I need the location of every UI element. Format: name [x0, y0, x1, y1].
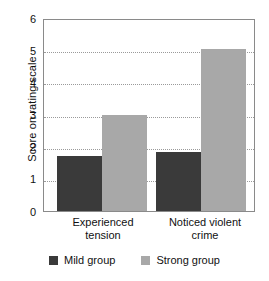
bar-strong-1	[201, 49, 246, 211]
x-axis-category-label-line: Experienced	[44, 216, 162, 229]
y-axis-tick-label: 0	[22, 207, 36, 218]
y-axis-tick-label: 5	[22, 46, 36, 57]
legend-label: Mild group	[64, 255, 115, 266]
bar-chart: Score on rating scale 0123456 Experience…	[0, 0, 269, 281]
legend-item-1[interactable]: Strong group	[141, 255, 220, 266]
bar-strong-0	[102, 115, 147, 212]
bar-mild-1	[156, 152, 201, 212]
legend-label: Strong group	[156, 255, 220, 266]
x-axis-category-label-1: Noticed violentcrime	[146, 216, 264, 242]
x-axis-category-label-line: Noticed violent	[146, 216, 264, 229]
y-axis-tick-label: 2	[22, 142, 36, 153]
y-axis-tick-label: 1	[22, 174, 36, 185]
x-axis-category-label-line: crime	[146, 229, 264, 242]
legend: Mild groupStrong group	[0, 255, 269, 266]
legend-item-0[interactable]: Mild group	[49, 255, 115, 266]
x-axis-category-label-0: Experiencedtension	[44, 216, 162, 242]
legend-swatch-icon	[49, 256, 58, 265]
plot-area	[43, 19, 255, 212]
y-axis-tick-label: 3	[22, 110, 36, 121]
y-axis-tick-label: 4	[22, 78, 36, 89]
y-axis-tick-label: 6	[22, 14, 36, 25]
x-axis-category-label-line: tension	[44, 229, 162, 242]
legend-swatch-icon	[141, 256, 150, 265]
bar-mild-0	[57, 156, 102, 211]
